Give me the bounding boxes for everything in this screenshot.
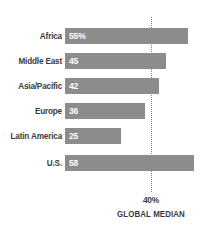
global-median-annotation: 40% GLOBAL MEDIAN	[101, 193, 201, 220]
category-label-africa: Africa	[0, 29, 62, 43]
bar-africa: 55%	[65, 28, 188, 44]
bar-us: 58	[65, 155, 194, 171]
bar-middle-east: 45	[65, 53, 166, 69]
bar-value-middle-east: 45	[69, 54, 78, 68]
category-label-europe: Europe	[0, 104, 62, 118]
bar-row: U.S. 58	[0, 155, 204, 171]
category-label-latin-america: Latin America	[0, 129, 62, 143]
bar-value-africa: 55%	[69, 29, 86, 43]
bar-row: Middle East 45	[0, 53, 204, 69]
bar-value-latin-america: 25	[69, 129, 78, 143]
bar-latin-america: 25	[65, 128, 121, 144]
bar-value-europe: 36	[69, 104, 78, 118]
bar-chart: Africa 55% Middle East 45 Asia/Pacific 4…	[0, 0, 204, 232]
bar-value-us: 58	[69, 156, 78, 170]
bar-row: Asia/Pacific 42	[0, 78, 204, 94]
global-median-caption: GLOBAL MEDIAN	[107, 208, 195, 220]
bar-row: Africa 55%	[0, 28, 204, 44]
bar-asia-pacific: 42	[65, 78, 159, 94]
category-label-us: U.S.	[0, 156, 62, 170]
bar-value-asia-pacific: 42	[69, 79, 78, 93]
bar-europe: 36	[65, 103, 145, 119]
global-median-value: 40%	[107, 193, 195, 206]
bar-rows: Africa 55% Middle East 45 Asia/Pacific 4…	[0, 28, 204, 180]
category-label-middle-east: Middle East	[0, 54, 62, 68]
bar-row: Latin America 25	[0, 128, 204, 144]
bar-row: Europe 36	[0, 103, 204, 119]
category-label-asia-pacific: Asia/Pacific	[0, 79, 62, 93]
